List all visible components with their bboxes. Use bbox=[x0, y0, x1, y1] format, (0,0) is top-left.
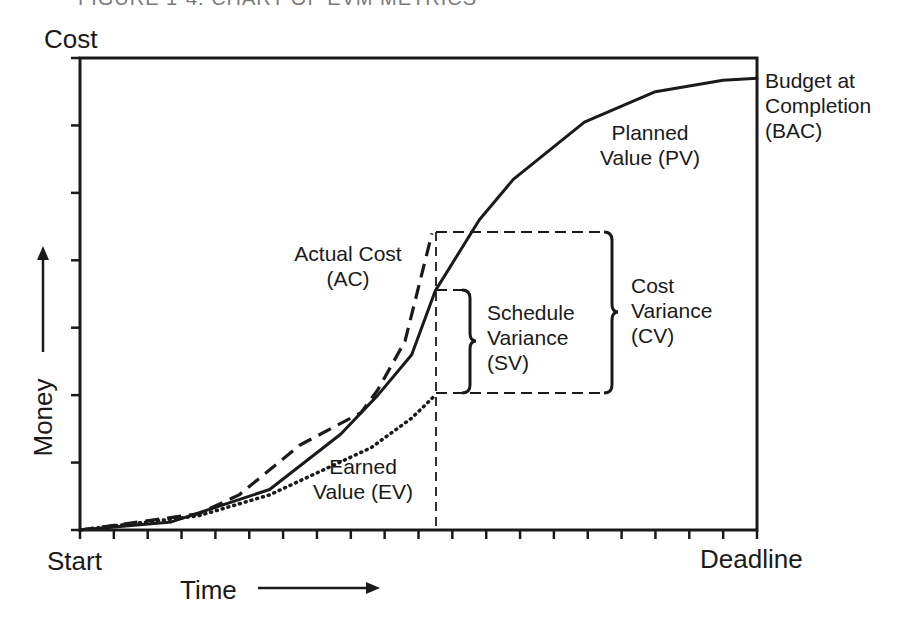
ev-label: EarnedValue (EV) bbox=[298, 454, 428, 504]
y-axis-label: Money bbox=[28, 371, 59, 465]
x-axis-ticks bbox=[80, 530, 757, 539]
time-arrow-head bbox=[366, 582, 380, 594]
x-start-label: Start bbox=[47, 546, 102, 576]
sv-label: ScheduleVariance(SV) bbox=[487, 300, 575, 375]
cv-brace bbox=[604, 232, 618, 393]
sv-brace bbox=[462, 290, 476, 393]
x-end-label: Deadline bbox=[700, 544, 803, 574]
ac-label: Actual Cost(AC) bbox=[278, 241, 418, 291]
bac-label: Budget atCompletion(BAC) bbox=[765, 68, 871, 143]
cv-label: CostVariance(CV) bbox=[631, 273, 712, 348]
pv-label: PlannedValue (PV) bbox=[585, 120, 715, 170]
money-arrow-head bbox=[37, 246, 49, 260]
x-axis-label: Time bbox=[180, 575, 237, 605]
y-top-label: Cost bbox=[44, 24, 97, 54]
